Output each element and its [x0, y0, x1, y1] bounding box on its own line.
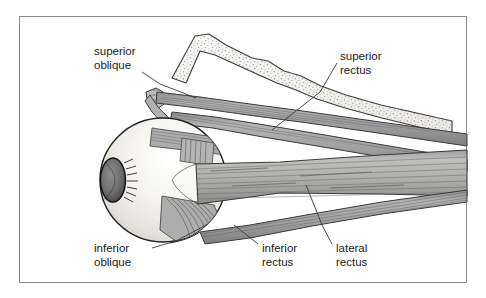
eye-anatomy-diagram: superior oblique superior rectus inferio… [0, 0, 486, 298]
label-inferior-rectus-line1: inferior [262, 242, 297, 254]
label-lateral-rectus-line2: rectus [336, 256, 368, 268]
label-inferior-oblique-line2: oblique [94, 256, 131, 268]
label-superior-rectus: superior rectus [340, 50, 382, 76]
figure-root: superior oblique superior rectus inferio… [0, 0, 486, 298]
label-inferior-oblique: inferior oblique [94, 242, 131, 268]
label-inferior-oblique-line1: inferior [94, 242, 129, 254]
label-superior-oblique-line1: superior [94, 45, 136, 57]
label-lateral-rectus-line1: lateral [336, 242, 367, 254]
label-superior-rectus-line1: superior [340, 50, 382, 62]
label-lateral-rectus: lateral rectus [336, 242, 368, 268]
label-inferior-rectus-line2: rectus [262, 256, 294, 268]
label-inferior-rectus: inferior rectus [262, 242, 297, 268]
label-superior-oblique: superior oblique [94, 45, 136, 71]
label-superior-rectus-line2: rectus [340, 64, 372, 76]
label-superior-oblique-line2: oblique [94, 59, 131, 71]
